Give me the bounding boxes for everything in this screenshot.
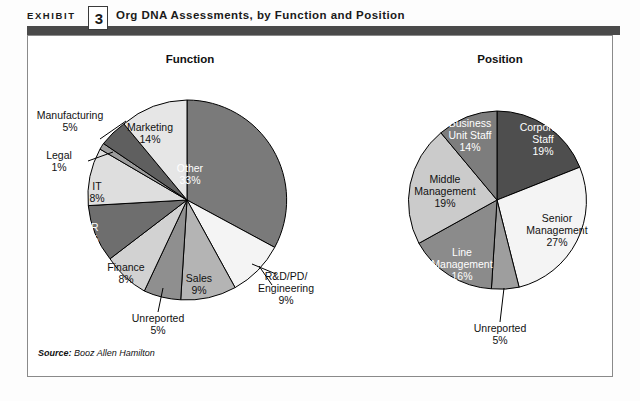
label-senior-pct: 27% [517, 237, 597, 249]
header-rule [27, 26, 620, 35]
label-unreported-function-pct: 5% [120, 325, 196, 337]
source-note: Source: Booz Allen Hamilton [38, 348, 155, 358]
label-business-pct: 14% [437, 142, 503, 154]
label-line-management: Line Management 16% [423, 247, 501, 282]
label-business-name-2: Unit Staff [437, 130, 503, 142]
label-finance-pct: 8% [98, 274, 154, 286]
label-marketing: Marketing 14% [115, 122, 185, 146]
label-business-unit-staff: Business Unit Staff 14% [437, 118, 503, 153]
label-unreported-function-name: Unreported [132, 312, 185, 324]
exhibit-page: EXHIBIT 3 Org DNA Assessments, by Functi… [0, 0, 640, 401]
label-unreported-function: Unreported 5% [120, 313, 196, 337]
label-sales-name: Sales [186, 272, 212, 284]
label-unreported-position: Unreported 5% [462, 323, 538, 347]
label-middle-name-1: Middle [430, 173, 461, 185]
label-finance-name: Finance [107, 261, 144, 273]
label-senior-name-1: Senior [542, 212, 572, 224]
label-corporate-name-1: Corporate [520, 121, 567, 133]
label-marketing-pct: 14% [115, 134, 185, 146]
label-senior-management: Senior Management 27% [517, 213, 597, 248]
label-line-pct: 16% [423, 271, 501, 283]
label-hr-name: HR [83, 221, 98, 233]
label-corporate-staff: Corporate Staff 19% [510, 122, 576, 157]
source-label: Source: [38, 348, 72, 358]
label-middle-pct: 19% [406, 198, 484, 210]
label-business-name-1: Business [449, 117, 492, 129]
label-unreported-position-pct: 5% [462, 335, 538, 347]
source-value: Booz Allen Hamilton [74, 348, 155, 358]
label-marketing-name: Marketing [127, 121, 173, 133]
label-corporate-pct: 19% [510, 146, 576, 158]
label-rd-pct: 9% [246, 295, 326, 307]
label-other: Other 33% [160, 163, 220, 187]
label-unreported-position-name: Unreported [474, 322, 527, 334]
label-hr: HR 8% [75, 222, 107, 246]
label-other-name: Other [177, 162, 203, 174]
label-legal: Legal 1% [36, 150, 82, 174]
label-middle-management: Middle Management 19% [406, 174, 484, 209]
label-sales-pct: 9% [176, 285, 222, 297]
label-corporate-name-2: Staff [510, 134, 576, 146]
label-legal-pct: 1% [36, 162, 82, 174]
exhibit-number-box: 3 [88, 6, 108, 30]
label-rd-pd-engineering: R&D/PD/ Engineering 9% [246, 271, 326, 306]
label-legal-name: Legal [46, 149, 72, 161]
exhibit-number: 3 [89, 7, 109, 31]
label-finance: Finance 8% [98, 262, 154, 286]
label-senior-name-2: Management [517, 225, 597, 237]
label-manufacturing: Manufacturing 5% [25, 110, 115, 134]
label-manufacturing-name: Manufacturing [37, 109, 104, 121]
leader-unreported-position [500, 288, 504, 322]
label-hr-pct: 8% [75, 234, 107, 246]
label-it: IT 8% [82, 181, 112, 205]
label-it-pct: 8% [82, 193, 112, 205]
label-sales: Sales 9% [176, 273, 222, 297]
label-rd-name-2: Engineering [246, 283, 326, 295]
label-line-name-1: Line [452, 246, 472, 258]
label-it-name: IT [92, 180, 101, 192]
label-middle-name-2: Management [406, 186, 484, 198]
label-line-name-2: Management [423, 259, 501, 271]
label-manufacturing-pct: 5% [25, 122, 115, 134]
label-rd-name-1: R&D/PD/ [265, 270, 308, 282]
label-other-pct: 33% [160, 175, 220, 187]
